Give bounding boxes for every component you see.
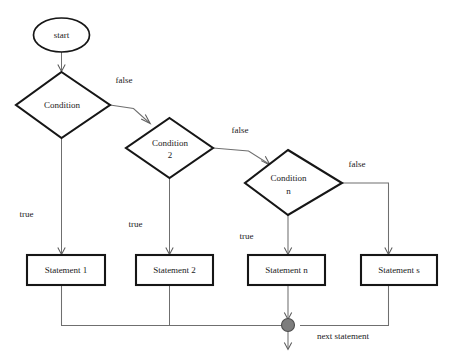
edge-label-true-n: true xyxy=(240,231,254,241)
node-statement-2[interactable]: Statement 2 xyxy=(136,255,213,285)
node-statement-n[interactable]: Statement n xyxy=(248,255,325,285)
edge-conditionn-false-to-statements xyxy=(342,183,392,255)
edge-statement1-to-merge xyxy=(62,285,287,326)
node-start-label: start xyxy=(54,30,70,40)
node-condition-1-label: Condition xyxy=(44,100,81,110)
edge-statements-to-merge xyxy=(300,285,389,326)
edge-start-to-condition1 xyxy=(58,52,65,72)
flowchart-canvas: Condition 2 --> Condition n --> Statemen… xyxy=(0,0,453,361)
edge-label-false-3: false xyxy=(349,159,366,169)
node-statement-1-label: Statement 1 xyxy=(45,265,88,275)
node-condition-n-label-line2: n xyxy=(286,186,291,196)
edge-label-false-1: false xyxy=(116,75,133,85)
node-statement-s[interactable]: Statement s xyxy=(361,255,437,285)
node-statement-n-label: Statement n xyxy=(265,265,308,275)
node-statement-s-label: Statement s xyxy=(378,265,420,275)
edge-statementn-to-merge xyxy=(284,285,291,320)
node-condition-2-label-line2: 2 xyxy=(168,150,173,160)
node-condition-2[interactable]: Condition 2 xyxy=(126,118,213,178)
node-condition-1[interactable]: Condition xyxy=(16,72,110,138)
edge-label-true-1: true xyxy=(20,209,34,219)
node-condition-n[interactable]: Condition n xyxy=(245,150,342,215)
flowchart-svg: Condition 2 --> Condition n --> Statemen… xyxy=(0,0,453,361)
node-statement-1[interactable]: Statement 1 xyxy=(27,255,105,285)
edge-label-true-2: true xyxy=(129,219,143,229)
node-statement-2-label: Statement 2 xyxy=(153,265,196,275)
node-merge-point[interactable] xyxy=(282,319,295,332)
edge-merge-to-next-statement xyxy=(284,331,291,350)
node-condition-2-label-line1: Condition xyxy=(152,138,189,148)
node-condition-n-label-line1: Condition xyxy=(270,173,307,183)
edge-condition1-false-to-condition2 xyxy=(110,105,150,124)
edge-condition2-false-to-conditionn xyxy=(213,148,270,165)
edge-condition1-true-to-statement1 xyxy=(58,138,65,255)
edge-label-false-2: false xyxy=(232,125,249,135)
edge-condition2-true-to-statement2 xyxy=(166,178,173,255)
edge-label-next-statement: next statement xyxy=(317,331,370,341)
edge-conditionn-true-to-statementn xyxy=(284,215,291,255)
node-start[interactable]: start xyxy=(34,18,90,52)
